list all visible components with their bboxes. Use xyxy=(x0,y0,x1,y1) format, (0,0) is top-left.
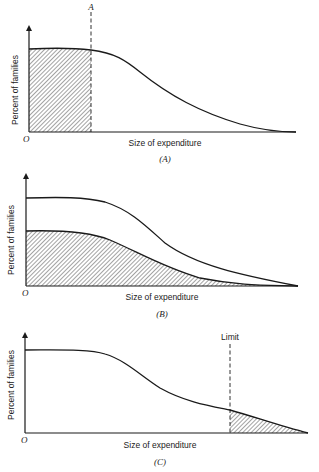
panel-a: A Percent of families O Size of expendit… xyxy=(10,2,296,164)
caption-c: (C) xyxy=(154,457,166,467)
y-axis-label-b: Percent of families xyxy=(6,205,16,275)
panel-c: Limit Percent of families O Size of expe… xyxy=(6,332,308,467)
panel-b: Percent of families O Size of expenditur… xyxy=(6,176,298,319)
hatched-area-a xyxy=(29,48,91,132)
origin-label-c: O xyxy=(21,435,28,445)
marker-label-a: A xyxy=(87,2,94,12)
origin-label-a: O xyxy=(23,134,30,144)
y-axis-label-a: Percent of families xyxy=(10,55,20,125)
figure-canvas: A Percent of families O Size of expendit… xyxy=(0,0,319,472)
x-axis-label-a: Size of expenditure xyxy=(129,138,202,148)
x-axis-label-b: Size of expenditure xyxy=(126,292,199,302)
caption-b: (B) xyxy=(156,309,168,319)
limit-label: Limit xyxy=(221,332,240,342)
caption-a: (A) xyxy=(159,154,171,164)
x-axis-label-c: Size of expenditure xyxy=(124,440,197,450)
distribution-curve-c xyxy=(25,350,308,433)
origin-label-b: O xyxy=(22,288,29,298)
y-axis-label-c: Percent of families xyxy=(6,350,16,420)
